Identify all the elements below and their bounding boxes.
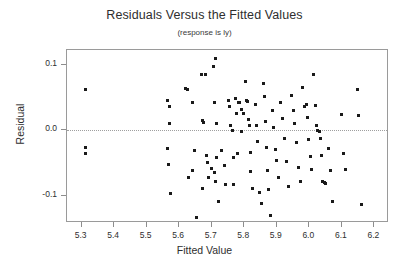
data-point [269,214,272,217]
data-point [167,163,170,166]
data-point [360,203,363,206]
data-point [214,180,217,183]
data-point [201,187,204,190]
data-point [166,147,169,150]
data-point [281,117,284,120]
x-tick-label: 5.7 [196,230,226,240]
data-point [200,73,203,76]
data-point [248,124,251,127]
data-point [277,176,280,179]
data-point [191,101,194,104]
data-point [224,183,227,186]
data-point [295,141,298,144]
data-point [299,180,302,183]
data-point [249,151,252,154]
data-point [315,124,318,127]
data-point [193,149,196,152]
data-point [310,168,313,171]
data-point [191,169,194,172]
data-point [258,191,261,194]
x-tick-label: 5.3 [66,230,96,240]
zero-reference-line [67,130,387,131]
residual-plot-figure: Residuals Versus the Fitted Values (resp… [0,0,409,270]
data-point [202,121,205,124]
x-tick-mark [146,222,147,227]
x-tick-label: 5.6 [163,230,193,240]
x-tick-label: 5.8 [228,230,258,240]
y-tick-label: 0.1 [17,58,57,68]
data-point [166,99,169,102]
data-point [271,109,274,112]
x-tick-mark [341,222,342,227]
data-point [215,122,218,125]
data-point [231,129,234,132]
data-point [229,124,232,127]
data-point [247,118,250,121]
data-point [266,169,269,172]
data-point [205,154,208,157]
data-point [344,168,347,171]
scatter-plot-area [67,50,387,221]
x-tick-mark [243,222,244,227]
data-point [236,152,239,155]
data-point [249,170,252,173]
y-tick-label: -0.1 [17,189,57,199]
data-point [234,97,237,100]
x-tick-mark [308,222,309,227]
data-point [240,108,243,111]
x-tick-label: 6.1 [326,230,356,240]
data-point [356,88,359,91]
data-point [204,73,207,76]
data-point [272,126,275,129]
data-point [297,166,300,169]
data-point [290,94,293,97]
data-point [169,192,172,195]
data-point [301,86,304,89]
data-point [320,154,323,157]
data-point [223,164,226,167]
data-point [254,103,257,106]
data-point [256,140,259,143]
data-point [242,112,245,115]
data-point [274,148,277,151]
chart-subtitle: (response is ly) [0,28,409,37]
data-point [187,176,190,179]
data-point [84,152,87,155]
data-point [207,176,210,179]
data-point [314,104,317,107]
data-point [246,100,249,103]
data-point [238,101,241,104]
data-point [357,114,360,117]
data-point [309,155,312,158]
data-point [210,167,213,170]
data-point [262,82,265,85]
data-point [292,109,295,112]
plot-frame [66,49,388,222]
chart-title: Residuals Versus the Fitted Values [0,8,409,22]
data-point [228,105,231,108]
data-point [283,137,286,140]
data-point [324,182,327,185]
data-point [227,99,230,102]
data-point [232,156,235,159]
data-point [331,200,334,203]
x-tick-mark [373,222,374,227]
data-point [84,88,87,91]
x-tick-label: 5.4 [98,230,128,240]
x-tick-label: 6.2 [358,230,388,240]
data-point [342,152,345,155]
data-point [217,200,220,203]
data-point [255,124,258,127]
data-point [240,130,243,133]
data-point [307,138,310,141]
data-point [305,103,308,106]
data-point [220,149,223,152]
data-point [263,95,266,98]
data-point [215,156,218,159]
data-point [265,146,268,149]
data-point [251,187,254,190]
data-point [260,202,263,205]
data-point [312,73,315,76]
data-point [206,161,209,164]
data-point [232,183,235,186]
